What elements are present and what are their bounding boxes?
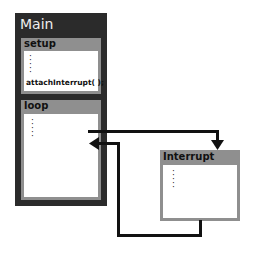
loop-body: ····· xyxy=(24,114,98,197)
interrupt-block: Interrupt ····· xyxy=(160,150,240,221)
arrowhead-down-icon xyxy=(211,140,224,150)
interrupt-body: ····· xyxy=(163,165,237,218)
main-title: Main xyxy=(20,16,53,32)
loop-block: loop ····· xyxy=(21,100,101,200)
loop-ellipsis: ····· xyxy=(31,118,35,138)
interrupt-ellipsis: ····· xyxy=(172,169,176,189)
setup-block: setup ····· attachInterrupt( ); xyxy=(21,38,101,94)
setup-body: ····· attachInterrupt( ); xyxy=(24,51,98,91)
interrupt-title: Interrupt xyxy=(163,151,214,162)
loop-title: loop xyxy=(24,100,48,111)
main-block: Main setup ····· attachInterrupt( ); loo… xyxy=(15,13,107,206)
arrowhead-left-icon xyxy=(89,137,99,150)
setup-ellipsis: ····· xyxy=(29,54,33,74)
setup-code: attachInterrupt( ); xyxy=(26,78,104,87)
setup-title: setup xyxy=(24,38,56,49)
